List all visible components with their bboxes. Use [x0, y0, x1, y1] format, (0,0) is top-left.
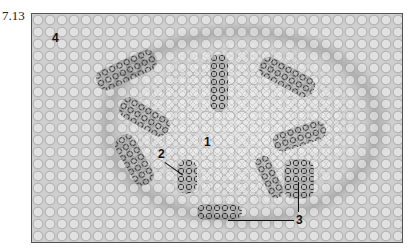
- label-4: 4: [52, 31, 59, 45]
- vascular-bundle: [210, 54, 228, 112]
- label-1: 1: [204, 135, 211, 149]
- leader-line-3b: [298, 182, 299, 212]
- vascular-bundle: [197, 204, 242, 220]
- vascular-bundle: [284, 159, 314, 199]
- label-3: 3: [296, 213, 303, 227]
- vascular-bundle: [177, 159, 197, 194]
- leader-line-3a: [228, 220, 294, 221]
- label-2: 2: [158, 147, 165, 161]
- figure-number: 7.13: [2, 8, 25, 24]
- micrograph: 4 1 2 3: [31, 13, 403, 243]
